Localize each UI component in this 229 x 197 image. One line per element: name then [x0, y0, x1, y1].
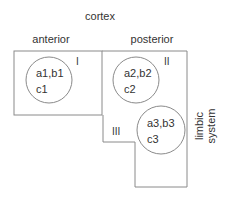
zone-ii-line1: a2,b2: [124, 67, 152, 79]
zone-ii-numeral: II: [164, 56, 170, 67]
zone-i-numeral: I: [76, 56, 79, 67]
posterior-label: posterior: [131, 33, 174, 45]
zone-i-circle: [26, 57, 72, 103]
cortex-title: cortex: [85, 10, 115, 22]
zone-i-line1: a1,b1: [36, 67, 64, 79]
anterior-box: [14, 51, 102, 115]
zone-iii-circle: [137, 106, 185, 154]
zone-i-line2: c1: [36, 83, 48, 95]
zone-iii-numeral: III: [112, 126, 120, 137]
zone-iii-line2: c3: [147, 133, 159, 145]
zone-i: a1,b1 c1 I: [26, 56, 79, 103]
limbic-label: limbic: [193, 111, 205, 140]
zone-ii-circle: [113, 57, 159, 103]
zone-iii-line1: a3,b3: [147, 117, 175, 129]
anterior-label: anterior: [32, 33, 70, 45]
zone-ii-line2: c2: [124, 83, 136, 95]
zone-iii: a3,b3 c3 III: [112, 106, 185, 154]
zone-ii: a2,b2 c2 II: [113, 56, 170, 103]
cortex-region-diagram: cortex anterior posterior a1,b1 c1 I a2,…: [0, 0, 229, 197]
system-label: system: [205, 109, 217, 144]
